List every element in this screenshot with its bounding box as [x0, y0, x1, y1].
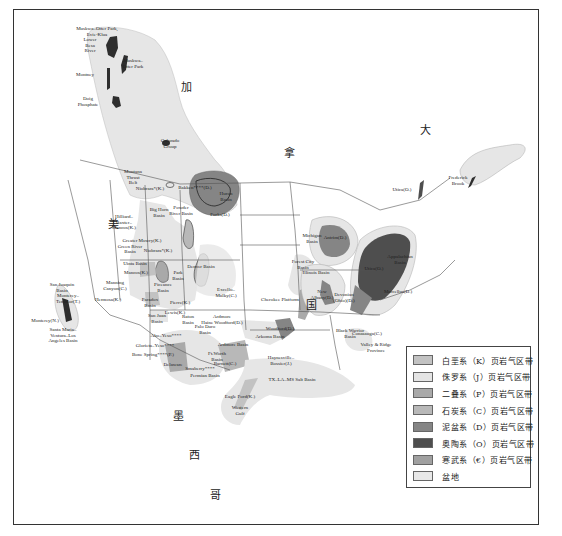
legend-label: 侏罗系（J）页岩气区带: [442, 371, 531, 382]
swatch-cambrian: [413, 455, 433, 465]
feature-label: Uinta Basin: [123, 261, 147, 267]
feature-label: Marcellus(D.): [384, 289, 412, 295]
maritimes-basin: [460, 144, 525, 185]
feature-label: Big Horn Basin: [150, 207, 169, 218]
feature-label: Appalachian Basin: [387, 254, 412, 265]
country-label: 墨: [173, 407, 184, 423]
swatch-jurassic: [413, 372, 433, 382]
legend: 白垩系（K）页岩气区带 侏罗系（J）页岩气区带 二叠系（P）页岩气区带 石炭系（…: [406, 346, 531, 488]
feature-label: Manning Canyon(C.): [103, 280, 126, 291]
legend-item-devonian: 泥盆系（D）页岩气区带: [413, 418, 524, 435]
feature-label: Colorado Group: [161, 138, 180, 149]
legend-item-permian: 二叠系（P）页岩气区带: [413, 385, 524, 402]
legend-label: 奥陶系（O）页岩气区带: [442, 438, 534, 449]
feature-label: Delaware: [163, 362, 182, 368]
feature-label: Raton Basin: [182, 314, 194, 325]
legend-label: 寒武系（€）页岩气区带: [442, 454, 533, 465]
legend-item-cretaceous: 白垩系（K）页岩气区带: [413, 352, 524, 369]
powder-river-zone: [183, 220, 194, 249]
feature-label: Niobrara*(K.): [144, 248, 172, 254]
country-label: 西: [189, 446, 200, 462]
feature-label: Greater Green River Basin: [118, 238, 143, 255]
feature-label: Muskwa–Otter Park, Evie-Klua: [76, 26, 118, 37]
country-label: 加: [181, 78, 192, 94]
feature-label: Pierre(K.): [170, 300, 190, 306]
legend-label: 石炭系（C）页岩气区带: [442, 405, 534, 416]
feature-label: Doig Phosphate: [78, 96, 99, 107]
feature-label: Excello– Mulky(C.): [215, 287, 236, 298]
feature-label: Antrim(D.): [324, 235, 347, 241]
feature-label: Hilliard– Baxter– Mancos(K.): [112, 214, 136, 231]
swatch-basin: [413, 471, 433, 481]
feature-label: Ft.Worth Basin: [208, 351, 226, 362]
feature-label: Utica(O.): [392, 187, 411, 193]
feature-label: Woodford(D.): [266, 326, 294, 332]
country-label: 大: [420, 121, 431, 137]
swatch-ordovician: [413, 438, 433, 448]
feature-label: Lower Besa River: [83, 37, 96, 54]
legend-item-cambrian: 寒武系（€）页岩气区带: [413, 452, 524, 469]
legend-item-jurassic: 侏罗系（J）页岩气区带: [413, 369, 524, 386]
feature-label: Powder River Basin: [169, 205, 193, 216]
feature-label: Cherokee Platform: [261, 297, 299, 303]
feature-label: San Juan Basin: [148, 313, 166, 324]
feature-label: Huron Basin: [220, 191, 233, 202]
swatch-carboniferous: [413, 405, 433, 415]
feature-label: Park Basin: [172, 270, 183, 281]
utica-zone: [418, 180, 424, 200]
feature-label: Eagle Ford(K.): [225, 394, 255, 400]
country-label: 哥: [210, 486, 221, 502]
feature-label: Palo Duro Basin: [195, 324, 215, 335]
feature-label: Illinois Basin: [303, 270, 330, 276]
feature-label: Monterey– Temblor(T.): [56, 293, 80, 304]
legend-item-ordovician: 奥陶系（O）页岩气区带: [413, 435, 524, 452]
feature-label: Mancos(K.): [124, 270, 148, 276]
feature-label: Valley & Ridge Province: [360, 342, 391, 353]
feature-label: Barnett(C.): [214, 361, 237, 367]
montney-zone: [107, 68, 110, 90]
feature-label: Forest City Basin: [292, 259, 314, 270]
country-label: 拿: [284, 144, 295, 160]
feature-label: Forks(D.): [210, 212, 230, 218]
feature-label: Michigan Basin: [302, 233, 321, 244]
feature-label: Smaberry****: [185, 366, 214, 372]
feature-label: Permian Basin: [190, 373, 219, 379]
legend-label: 泥盆系（D）页岩气区带: [442, 421, 534, 432]
swatch-permian: [413, 388, 433, 398]
feature-label: Western Gulf: [232, 405, 248, 416]
feature-label: Santa Maria– Ventura–Los Angeles Basin: [48, 327, 77, 344]
feature-label: Abo–Yeso****: [151, 333, 182, 339]
feature-label: Denver Basin: [187, 264, 214, 270]
legend-item-basin: 盆地: [413, 468, 524, 485]
swatch-devonian: [413, 422, 433, 432]
feature-label: Montney: [76, 72, 94, 78]
feature-label: Muskwa– Otter Park: [123, 58, 144, 69]
feature-label: Monterey(N.): [31, 318, 59, 324]
feature-label: Hermosa(K.): [95, 297, 121, 303]
feature-label: TX–LA–MS Salt Basin: [268, 377, 315, 383]
feature-label: Haynesville– Bossier(J.): [268, 355, 294, 366]
feature-label: Bakken****(D.): [178, 185, 211, 191]
feature-label: Ardmore Basin: [218, 342, 249, 348]
feature-label: Niobrara*(K.): [136, 186, 164, 192]
feature-label: Bone Spring****(P.): [132, 352, 174, 358]
feature-label: Conasauga(C.): [352, 331, 382, 337]
legend-item-carboniferous: 石炭系（C）页岩气区带: [413, 402, 524, 419]
legend-label: 二叠系（P）页岩气区带: [442, 388, 533, 399]
feature-label: Frederick Brook: [448, 175, 467, 186]
feature-label: Paradox Basin: [142, 297, 158, 308]
feature-label: Glorieta–Yeso****: [136, 343, 175, 349]
legend-label: 盆地: [442, 471, 459, 482]
feature-label: Utica(O.): [364, 266, 383, 272]
feature-label: San Joaquin Basin: [50, 282, 74, 293]
feature-label: Arkoma Basin: [255, 334, 284, 340]
legend-label: 白垩系（K）页岩气区带: [442, 355, 533, 366]
swatch-cretaceous: [413, 355, 433, 365]
feature-label: Devonian (Ohio)(D.): [333, 292, 355, 303]
feature-label: Piceance Basin: [154, 282, 172, 293]
feature-label: New Albany(D.): [311, 289, 334, 300]
feature-label: Montana Thrust Belt: [124, 169, 142, 186]
